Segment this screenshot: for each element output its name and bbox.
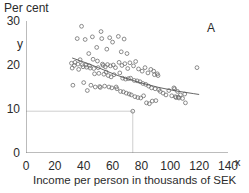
reference-lines [26,111,133,153]
x-tick-label: 120 [186,160,212,172]
y-tick-label: 0 [0,147,20,159]
y-axis-symbol-label: y [17,38,23,50]
x-tick-label: 40 [71,160,97,172]
plot-area [26,21,228,153]
x-tick-label: 20 [42,160,68,172]
y-axis-title: Per cent [4,2,49,14]
x-axis-title: Income per person in thousands of SEK [33,175,236,187]
y-tick-label: 20 [0,59,20,71]
y-tick-label: 10 [0,103,20,115]
axis-lines [26,21,228,153]
x-tick-label: 0 [13,160,39,172]
x-tick-label: 100 [157,160,183,172]
chart-figure: Per cent y A x Income per person in thou… [0,0,249,193]
x-tick-label: 140 [215,160,241,172]
x-tick-label: 60 [100,160,126,172]
scatter-plot-svg [26,21,228,153]
y-tick-label: 30 [0,15,20,27]
x-tick-label: 80 [128,160,154,172]
data-points [70,24,199,113]
axis-tick-marks [26,21,228,153]
